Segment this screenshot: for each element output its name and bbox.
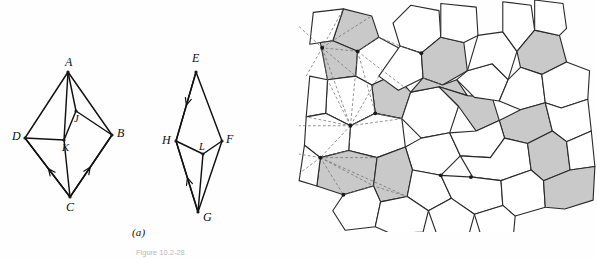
tessellation-cell	[441, 4, 478, 43]
left-graph-vertex-label-K: K	[61, 142, 70, 153]
tessellation-vertex-dot	[318, 156, 322, 160]
left-graph-vertex-dot-D	[23, 136, 26, 139]
right-graph-edge-GH	[176, 141, 198, 212]
panel-a-drawing: ADBCJK EHFGL	[0, 0, 297, 259]
left-graph-vertex-label-J: J	[74, 113, 80, 124]
octahedron-graph-left: ADBCJK	[11, 55, 125, 214]
left-graph-vertex-dot-A	[66, 70, 69, 73]
right-graph-vertex-label-H: H	[161, 133, 172, 147]
right-graph-vertex-dot-L	[201, 152, 204, 155]
left-graph-vertex-label-B: B	[117, 126, 125, 140]
left-graph-vertex-label-D: D	[11, 129, 21, 143]
tessellation-vertex-dot	[419, 51, 423, 55]
right-graph-vertex-label-E: E	[191, 51, 200, 65]
left-graph-vertex-dot-B	[110, 133, 113, 136]
right-graph-edge-EF	[196, 72, 222, 141]
octahedron-graph-right: EHFGL	[161, 51, 234, 224]
tessellation-vertex-dot	[373, 111, 377, 115]
delaunay-dashed-line	[306, 48, 322, 76]
tessellation-vertex-dot	[469, 175, 473, 179]
tessellation-vertex-dot	[349, 124, 353, 128]
left-graph-edge-AK	[64, 72, 68, 140]
right-graph-vertex-label-F: F	[225, 132, 234, 146]
right-graph-vertex-dot-F	[220, 139, 223, 142]
tessellation-cell	[306, 76, 327, 117]
left-graph-edge-CB	[70, 135, 112, 197]
left-graph-vertex-label-C: C	[66, 200, 75, 214]
voronoi-tessellation-drawing	[297, 0, 597, 232]
figure-page: ADBCJK EHFGL (a) (b) Figure 10.2-28	[0, 0, 597, 259]
left-graph-edge-JB	[76, 111, 112, 135]
right-graph-vertex-dot-G	[196, 210, 199, 213]
tessellation-vertex-dot	[341, 193, 345, 197]
tessellation-vertex-dot	[320, 46, 324, 50]
panel-b: (b)	[297, 0, 597, 259]
panel-label-a: (a)	[132, 226, 145, 238]
right-graph-vertex-dot-E	[194, 70, 197, 73]
left-graph-edge-DK	[25, 138, 64, 140]
tessellation-vertex-dot	[439, 173, 443, 177]
right-graph-vertex-label-G: G	[203, 210, 212, 224]
left-graph-edge-AD	[25, 72, 68, 138]
right-graph-vertex-label-L: L	[198, 141, 205, 152]
tessellation-cells	[299, 0, 595, 232]
left-graph-vertex-dot-C	[68, 195, 71, 198]
tessellation-vertex-dot	[356, 49, 360, 53]
left-graph-vertex-label-A: A	[64, 55, 73, 69]
panel-a: ADBCJK EHFGL (a)	[0, 0, 297, 259]
right-graph-vertex-dot-H	[174, 139, 177, 142]
figure-caption: Figure 10.2-28	[136, 248, 185, 257]
tessellation-cell	[535, 0, 567, 35]
